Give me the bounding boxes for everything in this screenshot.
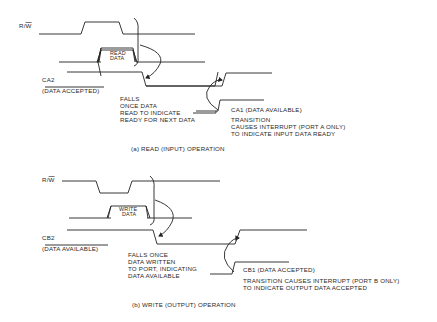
falls-note-a-3: READ TO INDICATE [120,109,181,116]
caption-b: (b) WRITE (OUTPUT) OPERATION [132,301,236,308]
read-operation-diagram: R/W READ DATA CA2 (DATA ACCEPTED) FALLS … [19,18,346,152]
read-to-ca2-arrow [140,45,161,78]
transition-note-a-1: TRANSITION [231,116,270,123]
ca2-description: (DATA ACCEPTED) [42,87,99,94]
falls-note-a-1: FALLS [120,95,140,102]
transition-note-a-2: CAUSES INTERRUPT (PORT A ONLY) [231,123,346,130]
caption-a: (a) READ (INPUT) OPERATION [131,145,225,152]
rw-signal-label-b: R/W [42,176,55,183]
transition-note-b-1: TRANSITION CAUSES INTERRUPT (PORT B ONLY… [243,277,400,284]
ca2-label: CA2 [42,76,55,83]
write-data-label-2: DATA [122,211,137,217]
handshake-timing-diagram: R/W READ DATA CA2 (DATA ACCEPTED) FALLS … [0,0,437,322]
cb2-waveform [67,230,307,244]
cb2-label: CB2 [42,234,55,241]
ca1-label: CA1 (DATA AVAILABLE) [231,106,302,113]
write-operation-diagram: R/W WRITE DATA CB2 (DATA AVAILABLE) FALL… [42,176,400,308]
transition-note-a-3: TO INDICATE INPUT DATA READY [231,130,335,137]
ca2-waveform [67,72,218,86]
ca1-to-ca2-arrow [206,80,222,110]
rw-signal-label-a: R/W [19,22,32,29]
falls-note-b-2: DATA WRITTEN [128,258,176,265]
rw-waveform-a [39,22,195,34]
falls-note-b-1: FALLS ONCE [128,251,168,258]
cb2-description: (DATA AVAILABLE) [42,245,98,252]
read-data-label-2: DATA [110,55,125,61]
cb1-label: CB1 (DATA ACCEPTED) [243,266,315,273]
transition-note-b-2: TO INDICATE OUTPUT DATA ACCEPTED [243,284,367,291]
falls-note-a-4: READY FOR NEXT DATA [120,116,196,123]
cb1-to-cb2-arrow [224,238,239,272]
ca2-rise [146,73,272,86]
rw-waveform-b [62,181,220,193]
falls-note-a-2: ONCE DATA [120,102,158,109]
falls-note-b-3: TO PORT, INDICATING [128,265,197,272]
falls-note-b-4: DATA AVAILABLE [128,272,180,279]
